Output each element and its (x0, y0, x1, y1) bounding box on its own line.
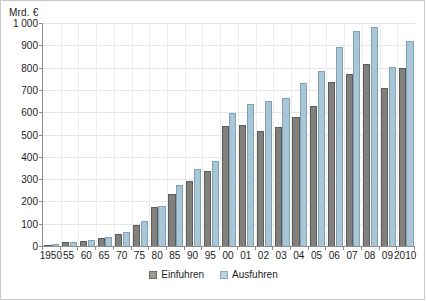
bar-ausfuhren-07 (353, 31, 360, 246)
x-axis-tick-label: 02 (258, 250, 269, 261)
bar-einfuhren-55 (62, 242, 69, 246)
y-axis-tick-mark (39, 112, 42, 113)
y-axis-tick-mark (39, 45, 42, 46)
bar-einfuhren-08 (363, 64, 370, 246)
x-axis-tick-mark (379, 247, 380, 250)
x-axis-tick-mark (325, 247, 326, 250)
bar-einfuhren-1950 (44, 245, 51, 247)
bar-einfuhren-02 (257, 131, 264, 247)
bar-ausfuhren-70 (123, 232, 130, 246)
bar-einfuhren-80 (151, 207, 158, 246)
x-axis-tick-label: 1950 (40, 250, 62, 261)
bar-ausfuhren-09 (389, 67, 396, 246)
y-gridline (43, 23, 415, 24)
bar-ausfuhren-80 (158, 206, 165, 246)
x-axis-tick-mark (272, 247, 273, 250)
x-axis-tick-label: 09 (382, 250, 393, 261)
bar-einfuhren-95 (204, 171, 211, 246)
x-axis-tick-mark (237, 247, 238, 250)
y-axis-tick-labels: 01002003004005006007008009001 000 (1, 23, 38, 246)
bar-einfuhren-65 (98, 238, 105, 246)
y-axis-tick-mark (39, 90, 42, 91)
x-axis-tick-label: 85 (169, 250, 180, 261)
bar-ausfuhren-2010 (406, 41, 413, 246)
x-gridline (202, 23, 203, 246)
x-axis-tick-mark (361, 247, 362, 250)
x-axis-tick-label: 00 (222, 250, 233, 261)
x-axis-tick-label: 04 (293, 250, 304, 261)
bar-einfuhren-90 (186, 181, 193, 246)
x-axis-tick-label: 08 (364, 250, 375, 261)
y-axis-tick-mark (39, 23, 42, 24)
x-axis-tick-label: 07 (346, 250, 357, 261)
y-axis-tick-mark (39, 179, 42, 180)
x-axis-tick-mark (95, 247, 96, 250)
y-axis-tick-mark (39, 201, 42, 202)
x-axis-tick-mark (131, 247, 132, 250)
bar-ausfuhren-06 (336, 47, 343, 246)
bar-einfuhren-09 (381, 88, 388, 246)
x-gridline (61, 23, 62, 246)
bar-ausfuhren-90 (194, 169, 201, 246)
x-axis-tick-mark (184, 247, 185, 250)
x-axis-tick-mark (77, 247, 78, 250)
x-axis-tick-label: 75 (134, 250, 145, 261)
x-axis-tick-label: 2010 (394, 250, 416, 261)
y-axis-tick-mark (39, 246, 42, 247)
bar-ausfuhren-55 (70, 242, 77, 246)
y-axis-tick-label: 600 (21, 107, 38, 118)
y-axis-tick-label: 900 (21, 40, 38, 51)
x-gridline (132, 23, 133, 246)
x-axis-tick-mark (113, 247, 114, 250)
y-axis-tick-mark (39, 224, 42, 225)
y-axis-tick-label: 300 (21, 174, 38, 185)
bar-ausfuhren-1950 (52, 244, 59, 246)
bar-ausfuhren-65 (105, 237, 112, 246)
x-axis-tick-label: 70 (116, 250, 127, 261)
chart-frame: Mrd. € 01002003004005006007008009001 000… (0, 0, 425, 300)
x-axis-tick-mark (255, 247, 256, 250)
plot-area (42, 23, 415, 247)
y-axis-tick-label: 0 (32, 241, 38, 252)
bar-einfuhren-60 (80, 241, 87, 246)
x-gridline (114, 23, 115, 246)
bar-einfuhren-00 (222, 126, 229, 246)
y-axis-tick-label: 200 (21, 196, 38, 207)
bar-einfuhren-06 (328, 82, 335, 246)
bar-einfuhren-75 (133, 225, 140, 246)
x-axis-tick-mark (308, 247, 309, 250)
x-axis-tick-mark (148, 247, 149, 250)
series-ausfuhren-swatch (220, 271, 228, 279)
x-axis-tick-label: 95 (205, 250, 216, 261)
bar-ausfuhren-05 (318, 71, 325, 246)
bar-einfuhren-03 (275, 127, 282, 246)
y-axis-tick-label: 700 (21, 84, 38, 95)
x-axis-tick-label: 55 (63, 250, 74, 261)
legend-item-einfuhren: Einfuhren (149, 269, 204, 280)
x-axis-tick-label: 90 (187, 250, 198, 261)
x-gridline (326, 23, 327, 246)
bar-ausfuhren-03 (282, 98, 289, 246)
y-axis-tick-label: 800 (21, 62, 38, 73)
legend-label-ausfuhren: Ausfuhren (232, 269, 278, 280)
bar-ausfuhren-75 (141, 221, 148, 246)
bar-ausfuhren-02 (265, 101, 272, 246)
y-axis-tick-label: 500 (21, 129, 38, 140)
bar-ausfuhren-00 (229, 113, 236, 246)
y-axis-tick-label: 100 (21, 218, 38, 229)
bar-einfuhren-01 (239, 125, 246, 246)
bar-einfuhren-2010 (399, 68, 406, 246)
y-axis-tick-label: 1 000 (13, 18, 38, 29)
bar-ausfuhren-60 (88, 240, 95, 246)
x-axis-tick-mark (290, 247, 291, 250)
x-axis-tick-mark (343, 247, 344, 250)
legend-item-ausfuhren: Ausfuhren (220, 269, 278, 280)
y-axis-unit-label: Mrd. € (9, 7, 39, 18)
bar-ausfuhren-01 (247, 104, 254, 246)
y-axis-tick-mark (39, 68, 42, 69)
bar-ausfuhren-08 (371, 27, 378, 246)
x-axis-tick-mark (219, 247, 220, 250)
x-axis-tick-label: 03 (276, 250, 287, 261)
legend-label-einfuhren: Einfuhren (161, 269, 204, 280)
bar-ausfuhren-95 (212, 161, 219, 246)
